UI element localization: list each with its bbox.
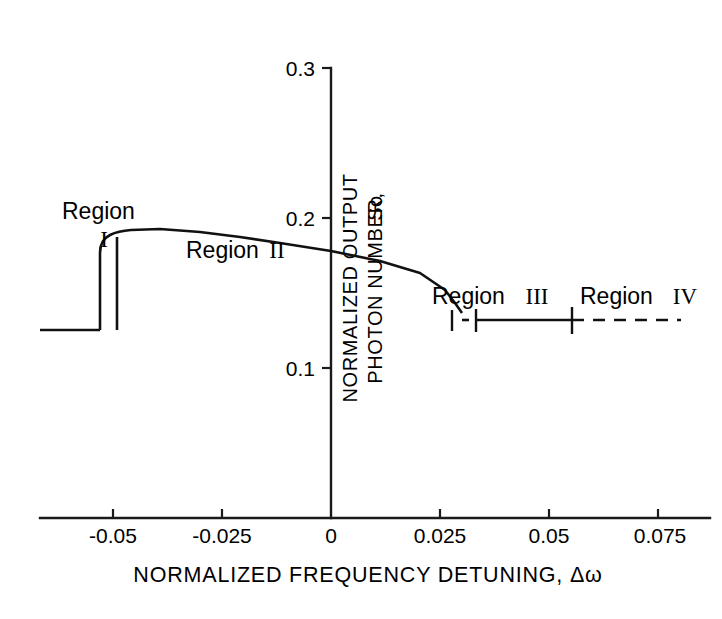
x-tick-label--0.025: -0.025 <box>192 524 252 547</box>
y-axis-ticks <box>322 68 331 368</box>
region-iii-numeral: III <box>526 284 549 309</box>
x-axis-ticks <box>113 509 658 518</box>
y-axis-title: NORMALIZED OUTPUT PHOTON NUMBER, So <box>339 173 386 402</box>
annotation-region-iv: Region IV <box>580 283 698 309</box>
chart-figure: -0.05 -0.025 0 0.025 0.05 0.075 0.3 0.2 … <box>0 0 722 619</box>
x-axis-title: NORMALIZED FREQUENCY DETUNING, Δω <box>133 563 602 587</box>
annotation-region-i: Region I <box>62 198 135 252</box>
y-tick-label-0.3: 0.3 <box>286 57 315 80</box>
y-axis-title-line3: So <box>364 195 386 221</box>
x-tick-label-0.075: 0.075 <box>634 524 687 547</box>
x-tick-label-0: 0 <box>325 524 337 547</box>
x-tick-label-0.05: 0.05 <box>529 524 570 547</box>
region-ii-numeral: II <box>269 238 284 263</box>
region-iv-numeral: IV <box>673 284 698 309</box>
region-i-numeral: I <box>100 227 108 252</box>
chart-svg: -0.05 -0.025 0 0.025 0.05 0.075 0.3 0.2 … <box>0 0 722 619</box>
region-iv-word: Region <box>580 283 653 309</box>
y-axis-title-line1: NORMALIZED OUTPUT <box>339 173 361 402</box>
annotation-region-iii: Region III <box>432 283 548 309</box>
x-tick-labels: -0.05 -0.025 0 0.025 0.05 0.075 <box>89 524 686 547</box>
annotation-region-ii: Region II <box>186 237 285 263</box>
region-iii-word: Region <box>432 283 505 309</box>
x-tick-label--0.05: -0.05 <box>89 524 137 547</box>
y-tick-label-0.2: 0.2 <box>286 207 315 230</box>
y-tick-labels: 0.3 0.2 0.1 <box>286 57 315 380</box>
region-ii-word: Region <box>186 237 259 263</box>
region-i-word: Region <box>62 198 135 224</box>
y-tick-label-0.1: 0.1 <box>286 357 315 380</box>
x-tick-label-0.025: 0.025 <box>414 524 467 547</box>
